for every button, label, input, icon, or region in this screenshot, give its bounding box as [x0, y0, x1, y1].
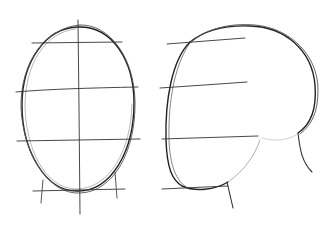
side-view-head: [160, 25, 318, 208]
front-view-head: [16, 20, 140, 214]
sketch-canvas: [0, 0, 332, 227]
